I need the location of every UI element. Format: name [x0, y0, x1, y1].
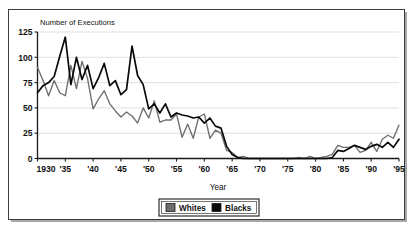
- y-tick-label: 0: [28, 154, 33, 164]
- legend: Whites Blacks: [159, 199, 259, 216]
- x-tick-label: '75: [282, 164, 294, 174]
- y-tick-label: 25: [23, 128, 33, 138]
- chart-plot-area: 0255075100125 1930'35'40'45'50'55'60'65'…: [0, 0, 417, 237]
- y-tick-label: 125: [18, 27, 33, 37]
- x-tick-label: '60: [199, 164, 211, 174]
- x-tick-label: '70: [254, 164, 266, 174]
- legend-label-whites: Whites: [179, 204, 206, 213]
- x-tick-label: '85: [338, 164, 350, 174]
- y-tick-group: 0255075100125: [18, 27, 37, 164]
- x-tick-label: '90: [365, 164, 377, 174]
- x-tick-label: '50: [143, 164, 155, 174]
- x-tick-label: '95: [393, 164, 405, 174]
- legend-label-blacks: Blacks: [225, 204, 252, 213]
- x-tick-label: '45: [115, 164, 127, 174]
- x-tick-label: '40: [87, 164, 99, 174]
- legend-swatch-whites: [166, 204, 175, 212]
- x-axis-title: Year: [210, 183, 227, 192]
- series-line-whites: [38, 61, 400, 158]
- x-tick-label: '80: [310, 164, 322, 174]
- legend-swatch-blacks: [212, 204, 221, 212]
- x-tick-label: '35: [60, 164, 72, 174]
- y-tick-label: 50: [23, 103, 33, 113]
- x-tick-label: 1930: [37, 164, 56, 174]
- y-tick-label: 75: [23, 78, 33, 88]
- x-tick-label: '55: [171, 164, 183, 174]
- y-axis-title: Number of Executions: [40, 18, 115, 27]
- x-tick-group: 1930'35'40'45'50'55'60'65'70'75'80'85'90…: [37, 159, 406, 174]
- figure-container: 0255075100125 1930'35'40'45'50'55'60'65'…: [0, 0, 417, 237]
- x-tick-label: '65: [226, 164, 238, 174]
- executions-line-chart: 0255075100125 1930'35'40'45'50'55'60'65'…: [0, 0, 417, 237]
- y-tick-label: 100: [18, 53, 33, 63]
